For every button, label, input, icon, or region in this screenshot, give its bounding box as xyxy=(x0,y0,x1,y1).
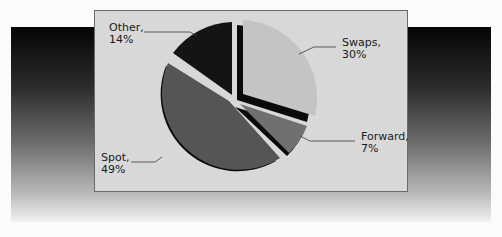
pie-chart xyxy=(0,0,502,237)
label-spot-pct: 49% xyxy=(101,164,130,176)
label-forward-pct: 7% xyxy=(361,143,409,155)
label-swaps: Swaps, 30% xyxy=(342,37,381,61)
label-other-pct: 14% xyxy=(109,34,144,46)
label-swaps-pct: 30% xyxy=(342,49,381,61)
label-other: Other, 14% xyxy=(109,22,144,46)
label-forward: Forward, 7% xyxy=(361,131,409,155)
label-spot: Spot, 49% xyxy=(101,152,130,176)
